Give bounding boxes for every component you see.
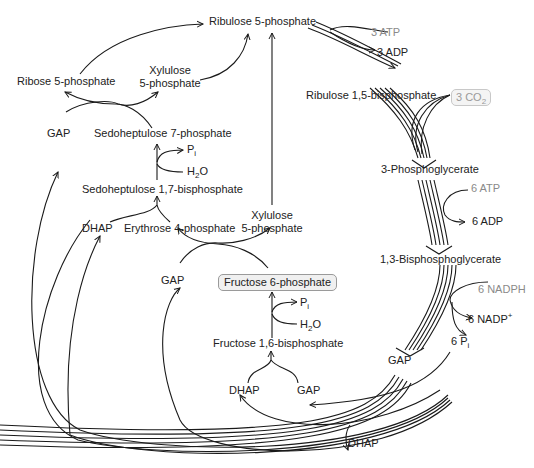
node-sedoheptulose-7-phosphate: Sedoheptulose 7-phosphate: [94, 127, 232, 140]
co2-text: 3 CO: [456, 91, 482, 103]
nadp-superscript: +: [508, 311, 513, 320]
cofactor-3-atp: 3 ATP: [371, 26, 400, 39]
nadp-text: 6 NADP: [468, 313, 508, 325]
cofactor-6-adp: 6 ADP: [472, 215, 503, 228]
cofactor-3-adp: 3 ADP: [377, 46, 408, 59]
node-3-phosphoglycerate: 3-Phosphoglycerate: [381, 163, 479, 176]
co2-subscript: 2: [482, 97, 486, 106]
node-ribulose-1-5-bisphosphate: Ribulose 1,5-bisphosphate: [306, 89, 436, 102]
node-gap-main: GAP: [388, 354, 411, 367]
cofactor-6-nadph: 6 NADPH: [478, 283, 526, 296]
node-xylulose-5-phosphate-mid: Xylulose 5-phosphate: [240, 209, 304, 235]
node-ribulose-5-phosphate: Ribulose 5-phosphate: [209, 15, 316, 28]
node-gap-bottom: GAP: [297, 384, 320, 397]
pi-subscript: i: [307, 302, 309, 311]
cofactor-pi-b: Pi: [300, 296, 309, 309]
node-xylulose-5-phosphate-top: Xylulose 5-phosphate: [138, 64, 202, 90]
label-line-1: Xylulose: [138, 64, 202, 77]
pi6-text: 6 P: [451, 335, 468, 347]
h2o-text-2: O: [199, 165, 208, 177]
label-line-1: Xylulose: [240, 209, 304, 222]
pi-subscript: i: [194, 149, 196, 158]
cofactor-3-co2: 3 CO2: [451, 89, 491, 106]
node-dhap-out: DHAP: [348, 437, 379, 450]
node-gap-left: GAP: [47, 127, 70, 140]
label-line-2: 5-phosphate: [240, 222, 304, 235]
node-sedoheptulose-1-7-bisphosphate: Sedoheptulose 1,7-bisphosphate: [82, 183, 243, 196]
node-fructose-6-phosphate: Fructose 6-phosphate: [218, 274, 337, 291]
node-dhap-left: DHAP: [82, 222, 113, 235]
node-ribose-5-phosphate: Ribose 5-phosphate: [17, 75, 115, 88]
cofactor-pi-a: Pi: [187, 143, 196, 156]
cofactor-6-nadp: 6 NADP+: [468, 313, 512, 326]
h2o-text-2: O: [312, 318, 321, 330]
cofactor-6-pi: 6 Pi: [451, 335, 469, 348]
h2o-text-1: H: [300, 318, 308, 330]
node-dhap-bottom: DHAP: [229, 384, 260, 397]
cofactor-h2o-a: H2O: [187, 165, 208, 178]
node-erythrose-4-phosphate: Erythrose 4-phosphate: [124, 222, 235, 235]
h2o-text-1: H: [187, 165, 195, 177]
node-fructose-1-6-bisphosphate: Fructose 1,6-bisphosphate: [213, 337, 343, 350]
pi6-subscript: i: [468, 341, 470, 350]
cofactor-6-atp: 6 ATP: [471, 182, 500, 195]
node-1-3-bisphosphoglycerate: 1,3-Bisphosphoglycerate: [380, 253, 501, 266]
cofactor-h2o-b: H2O: [300, 318, 321, 331]
node-gap-mid: GAP: [161, 274, 184, 287]
label-line-2: 5-phosphate: [138, 77, 202, 90]
